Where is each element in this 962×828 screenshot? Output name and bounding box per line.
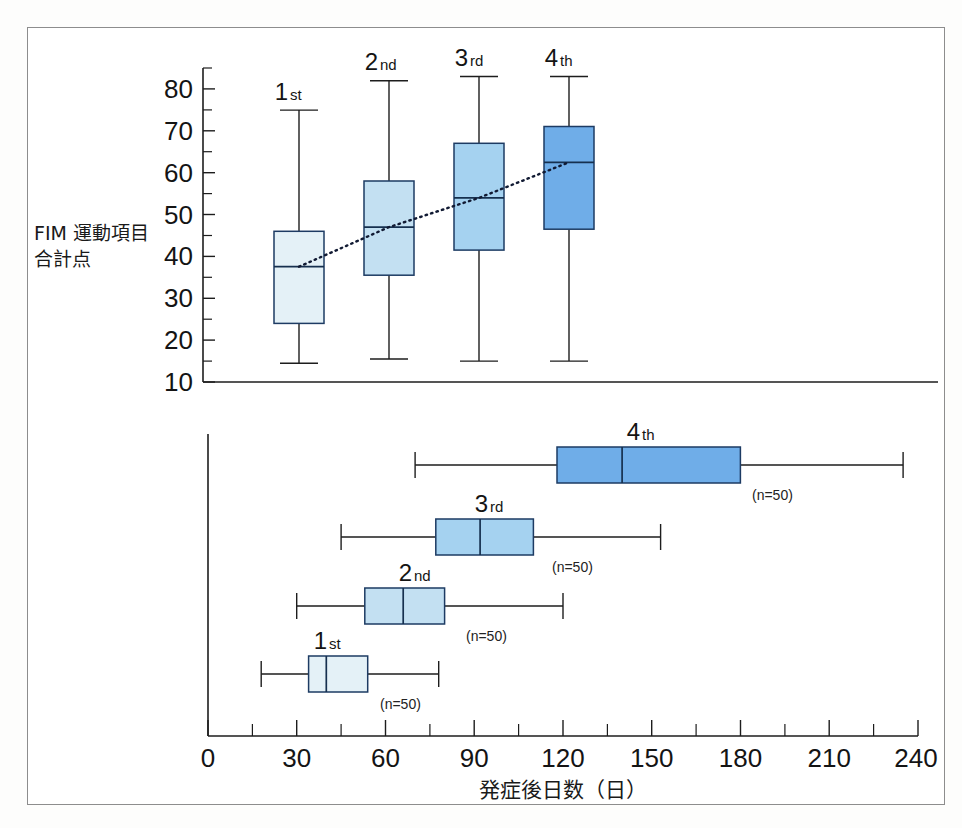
top-group-label-2nd-num: 2	[365, 48, 378, 75]
top-group-label-4th-num: 4	[545, 44, 558, 71]
bottom-x-axis-title: 発症後日数（日）	[479, 778, 647, 802]
top-box-3rd: 3 rd	[454, 44, 504, 361]
top-box-4th: 4 th	[544, 44, 594, 361]
top-ytick-label-70: 70	[164, 116, 193, 146]
box-body	[309, 656, 368, 692]
bottom-group-label-3rd-sup: rd	[490, 498, 503, 515]
bottom-xtick-label-90: 90	[460, 743, 489, 773]
top-box-1st: 1 st	[274, 78, 324, 363]
top-group-label-1st-sup: st	[290, 86, 303, 103]
bottom-box-4th: 4 th (n=50)	[415, 418, 903, 503]
bottom-group-label-4th-num: 4	[627, 418, 640, 445]
bottom-group-label-1st-sup: st	[329, 635, 342, 652]
top-ytick-label-80: 80	[164, 74, 193, 104]
top-group-label-3rd-num: 3	[455, 44, 468, 71]
bottom-n-label-3rd: (n=50)	[552, 559, 593, 575]
top-group-label-1st-num: 1	[275, 78, 288, 105]
bottom-group-label-2nd-sup: nd	[414, 567, 431, 584]
box-body	[544, 127, 594, 230]
top-ytick-label-40: 40	[164, 241, 193, 271]
bottom-xtick-label-60: 60	[371, 743, 400, 773]
bottom-box-2nd: 2 nd (n=50)	[297, 559, 563, 644]
box-body	[557, 447, 740, 483]
bottom-group-label-3rd-num: 3	[475, 490, 488, 517]
bottom-xtick-label-210: 210	[808, 743, 851, 773]
bottom-xtick-label-180: 180	[719, 743, 762, 773]
bottom-xtick-label-120: 120	[541, 743, 584, 773]
top-group-label-2nd-sup: nd	[380, 56, 397, 73]
figure-canvas: 80 70 60 50 40 30 20 10 FIM 運動項目 合計点	[0, 0, 962, 828]
bottom-xtick-label-30: 30	[282, 743, 311, 773]
top-ytick-label-20: 20	[164, 325, 193, 355]
boxplot-figure: 80 70 60 50 40 30 20 10 FIM 運動項目 合計点	[0, 0, 962, 828]
top-panel: 80 70 60 50 40 30 20 10 FIM 運動項目 合計点	[34, 44, 938, 397]
top-box-2nd: 2 nd	[364, 48, 414, 359]
bottom-group-label-1st-num: 1	[314, 627, 327, 654]
top-ytick-label-50: 50	[164, 200, 193, 230]
bottom-group-label-2nd-num: 2	[399, 559, 412, 586]
bottom-x-major-ticks	[208, 720, 918, 736]
bottom-group-label-4th-sup: th	[642, 426, 655, 443]
box-body	[365, 588, 445, 624]
median-trend-line	[299, 162, 569, 266]
bottom-xtick-label-150: 150	[630, 743, 673, 773]
top-y-axis-title-line1: FIM 運動項目	[34, 222, 149, 244]
bottom-panel: 0 30 60 90 120 150 180 210 240 発症後日数（日） …	[201, 418, 938, 802]
bottom-n-label-4th: (n=50)	[752, 487, 793, 503]
box-body	[274, 231, 324, 323]
bottom-n-label-2nd: (n=50)	[466, 628, 507, 644]
bottom-n-label-1st: (n=50)	[380, 696, 421, 712]
top-group-label-3rd-sup: rd	[470, 52, 483, 69]
top-group-label-4th-sup: th	[560, 52, 573, 69]
bottom-box-1st: 1 st (n=50)	[261, 627, 439, 712]
box-body	[436, 519, 534, 555]
top-y-axis-title-line2: 合計点	[34, 248, 91, 270]
bottom-box-3rd: 3 rd (n=50)	[341, 490, 660, 575]
bottom-xtick-label-240: 240	[894, 743, 937, 773]
top-ytick-label-30: 30	[164, 283, 193, 313]
top-ytick-label-10: 10	[164, 367, 193, 397]
top-ytick-label-60: 60	[164, 158, 193, 188]
bottom-xtick-label-0: 0	[201, 743, 215, 773]
